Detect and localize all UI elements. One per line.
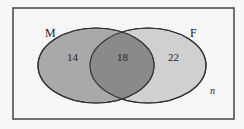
m-only-value: 14 [67, 51, 79, 63]
intersection-value: 18 [117, 51, 129, 63]
set-f-label: F [190, 26, 197, 40]
venn-diagram: M F 14 18 22 n [0, 0, 244, 129]
universe-label: n [210, 85, 215, 96]
set-m-label: M [45, 26, 56, 40]
f-only-value: 22 [168, 51, 179, 63]
